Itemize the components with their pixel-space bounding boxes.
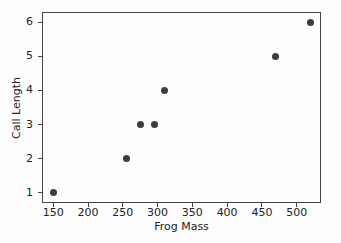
y-tick-mark <box>38 22 42 23</box>
y-tick-label: 2 <box>9 153 33 165</box>
y-tick-mark <box>38 56 42 57</box>
y-axis-title: Call Length <box>10 77 23 139</box>
y-tick-mark <box>38 90 42 91</box>
data-point <box>307 19 314 26</box>
x-tick-label: 500 <box>279 206 315 219</box>
data-point <box>151 121 158 128</box>
y-tick-mark <box>38 192 42 193</box>
x-tick-label: 150 <box>35 206 71 219</box>
x-tick-label: 450 <box>244 206 280 219</box>
x-tick-label: 350 <box>174 206 210 219</box>
y-tick-label: 5 <box>9 50 33 62</box>
x-tick-label: 250 <box>105 206 141 219</box>
x-tick-label: 200 <box>70 206 106 219</box>
data-point <box>123 155 130 162</box>
y-tick-label: 6 <box>9 16 33 28</box>
data-point <box>137 121 144 128</box>
scatter-plot-figure: 150200250300350400450500123456 Frog Mass… <box>0 0 341 243</box>
data-point <box>161 87 168 94</box>
plot-area <box>42 12 321 203</box>
y-tick-mark <box>38 124 42 125</box>
x-tick-label: 300 <box>140 206 176 219</box>
y-tick-mark <box>38 158 42 159</box>
y-tick-label: 1 <box>9 187 33 199</box>
x-tick-label: 400 <box>209 206 245 219</box>
x-axis-title: Frog Mass <box>42 220 321 233</box>
